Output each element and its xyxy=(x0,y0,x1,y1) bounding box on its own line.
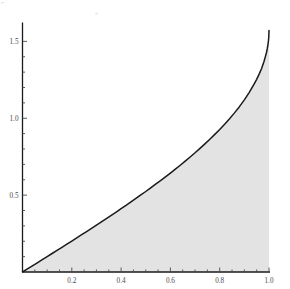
x-tick-label: 0.8 xyxy=(215,277,224,285)
filled-area-region xyxy=(23,31,270,273)
y-tick-label: 1.5 xyxy=(10,38,19,46)
plot-area: 0.20.40.60.81.00.51.01.5 xyxy=(0,0,290,289)
x-tick-label: 0.2 xyxy=(67,277,76,285)
x-tick-label: 0.6 xyxy=(166,277,175,285)
x-tick-label: 0.4 xyxy=(117,277,126,285)
chart-figure: ⌐ 0.20.40.60.81.00.51.01.5 xyxy=(0,0,290,289)
y-tick-label: 1.0 xyxy=(10,115,19,123)
x-tick-label: 1.0 xyxy=(265,277,274,285)
area-fill-path xyxy=(23,31,270,273)
y-tick-label: 0.5 xyxy=(10,192,19,200)
